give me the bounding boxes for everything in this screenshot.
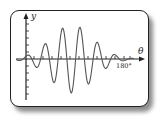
wave-packet-graph: y θ 180°: [0, 0, 164, 117]
theta-axis-label: θ: [138, 46, 144, 56]
y-axis-arrow-icon: [24, 13, 29, 19]
theta-axis-arrow-icon: [139, 57, 145, 62]
x-tick-label-180: 180°: [116, 62, 132, 70]
y-axis-label: y: [30, 11, 37, 21]
wave-curve: [16, 27, 134, 93]
